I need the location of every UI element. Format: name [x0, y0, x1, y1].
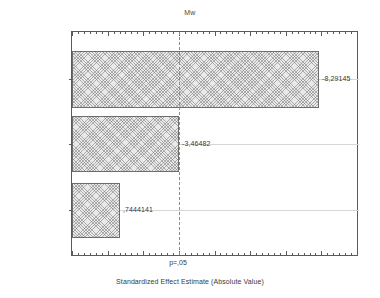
axis-tick — [197, 32, 198, 34]
axis-tick — [345, 253, 346, 255]
axis-tick — [173, 253, 174, 255]
axis-tick — [149, 253, 150, 255]
axis-tick — [339, 32, 340, 34]
axis-tick — [333, 32, 334, 34]
x-axis-title: Standardized Effect Estimate (Absolute V… — [0, 278, 380, 285]
axis-tick — [274, 253, 275, 255]
axis-tick — [215, 32, 216, 36]
axis-tick — [357, 251, 358, 255]
axis-tick — [304, 253, 305, 255]
axis-tick — [280, 32, 281, 34]
axis-tick — [143, 251, 144, 255]
axis-tick — [131, 32, 132, 34]
bar-temperature[interactable] — [72, 116, 179, 172]
axis-tick — [315, 32, 316, 34]
significance-line — [179, 32, 180, 255]
chart-title: Mw — [0, 9, 380, 16]
axis-tick — [292, 253, 293, 255]
axis-tick — [203, 253, 204, 255]
significance-line-label: p=,05 — [169, 259, 187, 266]
axis-tick — [131, 253, 132, 255]
axis-tick — [232, 32, 233, 34]
axis-tick — [256, 253, 257, 255]
axis-tick — [262, 253, 263, 255]
axis-tick — [191, 253, 192, 255]
axis-tick — [90, 253, 91, 255]
axis-tick — [286, 251, 287, 255]
axis-tick — [298, 253, 299, 255]
axis-tick — [351, 32, 352, 34]
axis-tick — [125, 32, 126, 34]
axis-tick — [72, 251, 73, 255]
value-guide-3 — [120, 210, 359, 211]
axis-tick — [220, 253, 221, 255]
bar-nabh4[interactable] — [72, 51, 319, 108]
axis-tick — [238, 253, 239, 255]
bar-value-label-3: ,7444141 — [123, 206, 153, 213]
axis-tick — [137, 32, 138, 34]
axis-tick — [203, 32, 204, 34]
axis-tick — [161, 32, 162, 34]
axis-tick — [321, 251, 322, 255]
axis-tick — [84, 253, 85, 255]
axis-tick — [262, 32, 263, 34]
pareto-chart: Mw (1)NaBH4 (2)Temperature 1by2 -8,29145… — [0, 0, 380, 298]
axis-tick — [238, 32, 239, 34]
axis-tick — [125, 253, 126, 255]
axis-tick — [250, 32, 251, 36]
axis-tick — [161, 253, 162, 255]
axis-tick — [244, 253, 245, 255]
axis-tick — [304, 32, 305, 34]
axis-tick — [108, 32, 109, 36]
axis-tick — [220, 32, 221, 34]
axis-tick — [310, 32, 311, 34]
axis-tick — [84, 32, 85, 34]
axis-tick — [167, 253, 168, 255]
bar-value-label-2: -3,46482 — [182, 140, 210, 147]
bottom-axis-ticks — [72, 251, 357, 255]
axis-tick — [310, 253, 311, 255]
axis-tick — [143, 32, 144, 36]
axis-tick — [137, 253, 138, 255]
bar-value-label-1: -8,29145 — [322, 75, 350, 82]
axis-tick — [102, 253, 103, 255]
axis-tick — [250, 251, 251, 255]
axis-tick — [286, 32, 287, 36]
axis-tick — [321, 32, 322, 36]
axis-tick — [108, 251, 109, 255]
axis-tick — [292, 32, 293, 34]
axis-tick — [339, 253, 340, 255]
axis-tick — [149, 32, 150, 34]
top-axis-ticks — [72, 32, 357, 36]
axis-tick — [191, 32, 192, 34]
axis-tick — [226, 253, 227, 255]
axis-tick — [298, 32, 299, 34]
bar-1by2[interactable] — [72, 183, 120, 238]
axis-tick — [114, 253, 115, 255]
axis-tick — [120, 253, 121, 255]
axis-tick — [96, 32, 97, 34]
axis-tick — [173, 32, 174, 34]
axis-tick — [215, 251, 216, 255]
axis-tick — [333, 253, 334, 255]
axis-tick — [120, 32, 121, 34]
axis-tick — [197, 253, 198, 255]
axis-tick — [268, 32, 269, 34]
axis-tick — [327, 32, 328, 34]
axis-tick — [268, 253, 269, 255]
axis-tick — [167, 32, 168, 34]
axis-tick — [327, 253, 328, 255]
axis-tick — [185, 32, 186, 34]
axis-tick — [244, 32, 245, 34]
axis-tick — [114, 32, 115, 34]
axis-tick — [102, 32, 103, 34]
axis-tick — [209, 253, 210, 255]
axis-tick — [357, 32, 358, 36]
axis-tick — [155, 32, 156, 34]
axis-tick — [345, 32, 346, 34]
axis-tick — [90, 32, 91, 34]
axis-tick — [280, 253, 281, 255]
axis-tick — [232, 253, 233, 255]
axis-tick — [96, 253, 97, 255]
axis-tick — [72, 32, 73, 36]
